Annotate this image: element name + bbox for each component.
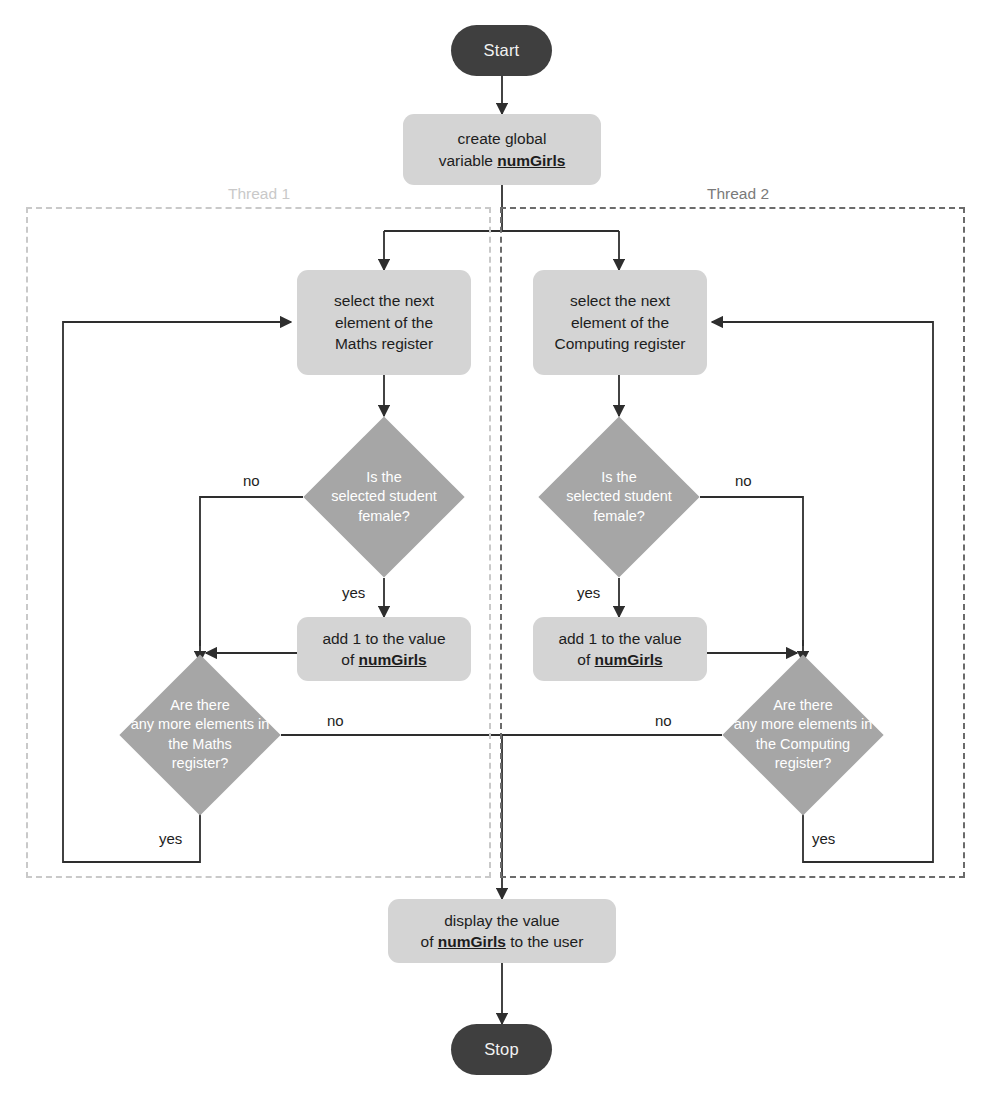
select-computing-line1: select the next [570,292,670,309]
display-line2-prefix: of [421,933,438,950]
more-computing-diamond-shape [722,654,883,815]
edge-label-female-left-yes: yes [342,584,365,601]
thread-2-label: Thread 2 [707,185,769,203]
create-global-line1: create global [458,130,547,147]
add-one-right-box: add 1 to the value of numGirls [533,617,707,681]
stop-terminator: Stop [451,1024,552,1075]
more-maths-diamond-shape [119,654,280,815]
more-computing-elements-decision: Are there any more elements in the Compu… [746,678,860,792]
thread-1-label: Thread 1 [228,185,290,203]
create-global-variable-name: numGirls [497,152,565,169]
select-computing-line2: element of the [571,314,669,331]
edge-label-more-computing-yes: yes [812,830,835,847]
edge-label-female-right-yes: yes [577,584,600,601]
select-maths-line1: select the next [334,292,434,309]
display-variable-name: numGirls [438,933,506,950]
create-global-line2-prefix: variable [439,152,498,169]
edge-label-more-maths-yes: yes [159,830,182,847]
is-female-left-decision: Is the selected student female? [327,440,441,554]
display-line2-suffix: to the user [506,933,584,950]
select-maths-line3: Maths register [335,335,433,352]
is-female-right-diamond-shape [538,416,699,577]
add-one-left-box: add 1 to the value of numGirls [297,617,471,681]
stop-label: Stop [484,1040,519,1059]
select-computing-line3: Computing register [555,335,686,352]
display-value-box: display the value of numGirls to the use… [388,899,616,963]
add-one-right-line1: add 1 to the value [558,630,681,647]
select-maths-element-box: select the next element of the Maths reg… [297,270,471,375]
add-one-left-line2-prefix: of [341,651,358,668]
edge-label-female-right-no: no [735,472,752,489]
start-label: Start [484,41,520,60]
is-female-right-decision: Is the selected student female? [562,440,676,554]
select-computing-element-box: select the next element of the Computing… [533,270,707,375]
create-global-variable-box: create global variable numGirls [403,114,601,185]
edge-label-more-maths-no: no [327,712,344,729]
start-terminator: Start [451,25,552,76]
add-one-right-variable-name: numGirls [595,651,663,668]
select-maths-line2: element of the [335,314,433,331]
edge-label-more-computing-no: no [655,712,672,729]
is-female-left-diamond-shape [303,416,464,577]
more-maths-elements-decision: Are there any more elements in the Maths… [143,678,257,792]
display-line1: display the value [444,912,559,929]
flowchart-canvas: Thread 1 Thread 2 [0,0,987,1101]
add-one-left-variable-name: numGirls [359,651,427,668]
edge-label-female-left-no: no [243,472,260,489]
add-one-right-line2-prefix: of [577,651,594,668]
add-one-left-line1: add 1 to the value [322,630,445,647]
